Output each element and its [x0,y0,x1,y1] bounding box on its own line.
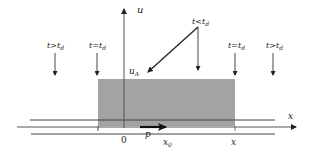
time-label-1: t=td [89,41,106,51]
time-label-0: t>td [47,41,64,51]
time-label-2: t<td [192,17,209,27]
shaded-region [98,79,235,126]
diffusion-diagram: u uA t>td t=td t<td t=td t>td 0 p x0 x x [0,0,310,156]
p-label: p [145,129,151,139]
ua-label: uA [129,66,140,77]
u-axis-label: u [137,4,143,15]
x-axis-label: x [288,111,293,121]
x0-label: x0 [163,137,172,148]
arrow-t-lt-td-diagonal [148,27,198,72]
time-label-3: t=td [228,41,245,51]
x-tick-label: x [231,137,236,147]
origin-label: 0 [121,135,127,145]
time-label-4: t>td [266,41,283,51]
